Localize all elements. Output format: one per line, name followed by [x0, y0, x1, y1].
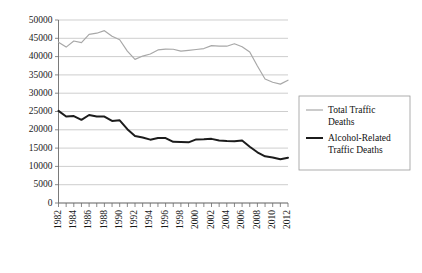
y-tick-label: 25000 [29, 106, 53, 116]
y-tick-label: 10000 [29, 161, 53, 171]
x-tick-label: 2012 [282, 210, 292, 229]
legend-label-1-line2: Deaths [328, 117, 355, 127]
series-line-2 [59, 111, 289, 159]
legend-label-2-line2: Traffic Deaths [328, 145, 383, 155]
x-tick-label: 2008 [252, 210, 262, 229]
x-tick-label: 1996 [160, 210, 170, 229]
x-tick-label: 1986 [83, 210, 93, 229]
y-tick-labels: 0500010000150002000025000300003500040000… [29, 15, 53, 208]
x-tick-label: 2000 [190, 210, 200, 229]
y-tick-label: 40000 [29, 51, 53, 61]
y-tick-label: 15000 [29, 143, 53, 153]
legend-label-1-line1: Total Traffic [328, 105, 375, 115]
line-chart: 0500010000150002000025000300003500040000… [0, 0, 422, 273]
data-series [59, 31, 289, 160]
x-axis [59, 203, 289, 207]
x-tick-label: 2010 [267, 210, 277, 229]
chart-legend: Total TrafficDeathsAlcohol-RelatedTraffi… [299, 96, 410, 170]
x-tick-label: 2006 [236, 210, 246, 229]
x-tick-labels: 1982198419861988199019921994199619982000… [53, 210, 293, 229]
x-tick-label: 1992 [129, 210, 139, 229]
grid-lines [59, 20, 289, 203]
y-tick-label: 5000 [34, 179, 53, 189]
x-tick-label: 1988 [99, 210, 109, 229]
x-tick-label: 1990 [114, 210, 124, 229]
x-tick-label: 1994 [144, 210, 154, 229]
y-tick-label: 30000 [29, 88, 53, 98]
y-tick-label: 50000 [29, 15, 53, 25]
x-tick-label: 1998 [175, 210, 185, 229]
series-line-1 [59, 31, 289, 84]
x-tick-label: 1982 [53, 210, 63, 229]
y-tick-label: 20000 [29, 124, 53, 134]
y-tick-label: 45000 [29, 33, 53, 43]
x-tick-label: 1984 [68, 210, 78, 229]
x-tick-label: 2002 [206, 210, 216, 229]
x-tick-label: 2004 [221, 210, 231, 229]
chart-figure: 0500010000150002000025000300003500040000… [0, 0, 422, 273]
y-tick-label: 0 [48, 198, 53, 208]
legend-label-2-line1: Alcohol-Related [328, 133, 391, 143]
y-tick-label: 35000 [29, 70, 53, 80]
